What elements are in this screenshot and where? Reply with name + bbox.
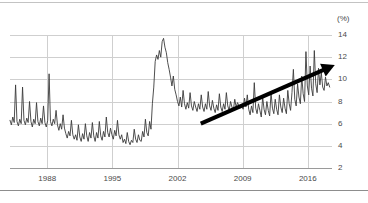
y-tick-label-6: 6 (338, 120, 342, 128)
x-tick-label-2009: 2009 (223, 174, 263, 183)
y-tick-label-8: 8 (338, 98, 342, 106)
y-tick-label-10: 10 (338, 75, 347, 83)
x-tick-label-2016: 2016 (288, 174, 328, 183)
plot-area (10, 35, 332, 168)
y-tick-label-2: 2 (338, 164, 342, 172)
y-tick-label-12: 12 (338, 53, 347, 61)
x-axis-line (10, 168, 332, 169)
x-tick-label-1988: 1988 (27, 174, 67, 183)
y-tick-label-14: 14 (338, 31, 347, 39)
x-tick-label-2002: 2002 (158, 174, 198, 183)
bottom-divider-rule (0, 190, 368, 191)
rising-trend-arrow (10, 35, 332, 168)
y-tick-label-4: 4 (338, 142, 342, 150)
y-axis-unit-label: (%) (337, 14, 349, 23)
x-tick-label-1995: 1995 (92, 174, 132, 183)
chart-figure: (%) 1412108642 19881995200220092016 (0, 0, 368, 203)
top-divider-rule (0, 2, 368, 3)
